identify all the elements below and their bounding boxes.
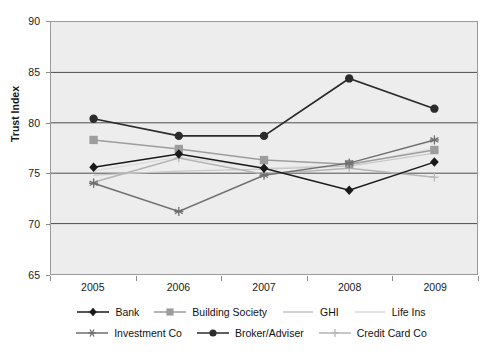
x-tick-mark [478,276,479,281]
chart-root: Trust Index 908580757065 200520062007200… [0,0,502,358]
x-tick-label: 2006 [148,281,208,293]
legend-marker-asterisk-icon [75,326,109,340]
chart-legend: BankBuilding SocietyGHILife Ins Investme… [0,300,502,348]
legend-marker-diamond-icon [76,305,110,319]
data-point-asterisk-marker [89,179,98,188]
data-point-diamond-marker [260,163,269,173]
x-tick-mark [392,276,393,281]
data-point-circle-marker [430,105,438,113]
x-tick-label: 2005 [63,281,123,293]
legend-marker-plus-icon [318,326,352,340]
legend-label: Life Ins [392,306,426,318]
data-point-circle-marker [89,115,97,123]
legend-label: Credit Card Co [357,327,427,339]
legend-item-credit-card-co[interactable]: Credit Card Co [318,323,427,343]
legend-item-broker-adviser[interactable]: Broker/Adviser [196,323,304,343]
x-tick-mark [307,276,308,281]
x-tick-mark [136,276,137,281]
x-tick-label: 2008 [320,281,380,293]
x-tick-mark [50,276,51,281]
data-point-square-marker [260,156,268,164]
data-point-diamond-marker [345,186,354,196]
legend-marker-square-icon [153,305,187,319]
legend-row-1: BankBuilding SocietyGHILife Ins [0,302,502,322]
legend-label: GHI [320,306,339,318]
legend-marker-line-icon [353,305,387,319]
legend-item-building-society[interactable]: Building Society [153,302,267,322]
data-point-circle-marker [260,132,268,140]
plot-area [50,21,478,275]
legend-item-bank[interactable]: Bank [76,302,139,322]
data-point-plus-marker [430,173,438,181]
legend-label: Investment Co [114,327,182,339]
plot-canvas [51,22,477,274]
series-investment-co [89,135,439,216]
data-point-circle-marker [175,132,183,140]
legend-item-ghi[interactable]: GHI [281,302,339,322]
x-tick-label: 2007 [234,281,294,293]
legend-item-life-ins[interactable]: Life Ins [353,302,426,322]
legend-label: Building Society [192,306,267,318]
legend-marker-line-icon [281,305,315,319]
data-point-circle-marker [345,74,353,82]
legend-marker-circle-icon [196,326,230,340]
series-broker-adviser [89,74,438,140]
data-point-asterisk-marker [174,207,183,216]
data-point-square-marker [430,146,438,154]
data-point-square-marker [89,136,97,144]
legend-row-2: Investment CoBroker/Adviser Credit Card … [0,323,502,343]
data-point-diamond-marker [430,157,439,167]
legend-label: Broker/Adviser [235,327,304,339]
legend-label: Bank [115,306,139,318]
legend-item-investment-co[interactable]: Investment Co [75,323,182,343]
data-point-asterisk-marker [430,135,439,144]
x-tick-mark [221,276,222,281]
x-tick-label: 2009 [405,281,465,293]
